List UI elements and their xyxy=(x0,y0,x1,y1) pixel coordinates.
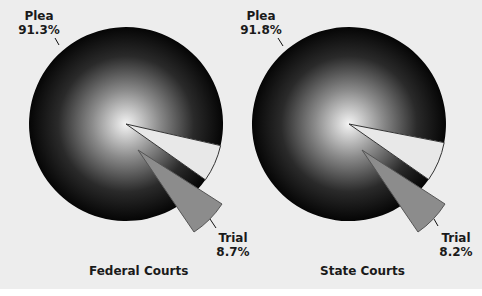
federal-pie xyxy=(29,27,223,232)
state-pie xyxy=(252,27,446,232)
state-caption: State Courts xyxy=(320,264,405,278)
federal-trial-leader xyxy=(210,219,216,228)
state-plea-leader xyxy=(278,38,283,46)
federal-plea-pct: 91.3% xyxy=(18,23,60,37)
state-plea-name: Plea xyxy=(240,9,282,23)
state-plea-pct: 91.8% xyxy=(240,23,282,37)
federal-trial-name: Trial xyxy=(213,231,253,245)
federal-caption: Federal Courts xyxy=(89,264,188,278)
state-plea-label: Plea 91.8% xyxy=(240,9,282,37)
federal-trial-label: Trial 8.7% xyxy=(213,231,253,259)
state-trial-label: Trial 8.2% xyxy=(436,231,476,259)
state-trial-pct: 8.2% xyxy=(436,245,476,259)
federal-plea-label: Plea 91.3% xyxy=(18,9,60,37)
federal-plea-leader xyxy=(55,38,59,45)
federal-trial-pct: 8.7% xyxy=(213,245,253,259)
state-trial-name: Trial xyxy=(436,231,476,245)
federal-plea-name: Plea xyxy=(18,9,60,23)
state-trial-leader xyxy=(434,219,438,226)
